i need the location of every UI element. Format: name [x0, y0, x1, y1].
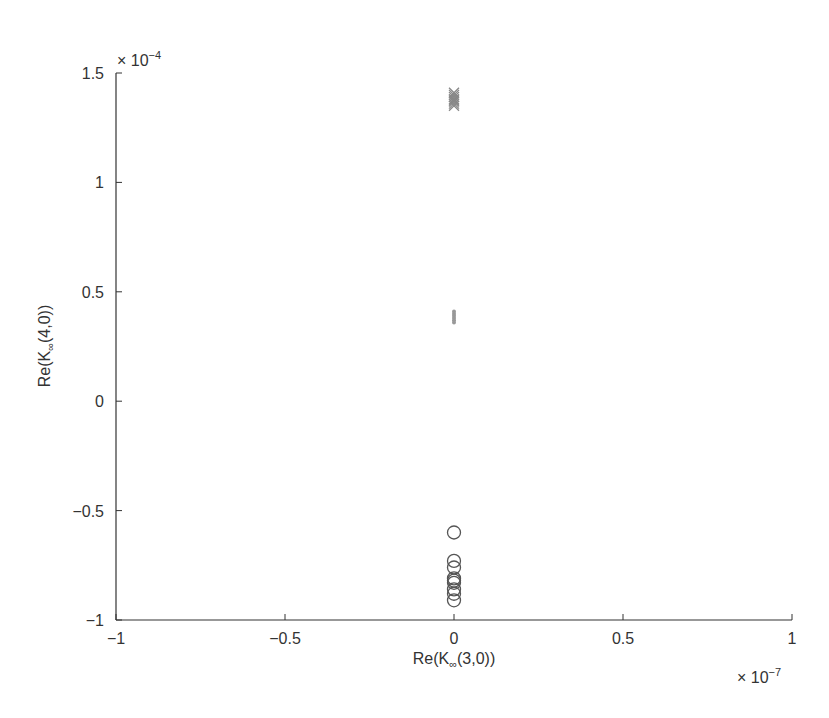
y-tick-label: 1 — [95, 174, 104, 191]
scatter-plot: −1−0.500.51−1−0.500.511.5 × 10−4 × 10−7 … — [0, 0, 829, 718]
axes — [116, 73, 792, 620]
x-axis-multiplier: × 10−7 — [737, 666, 781, 686]
dot-marker — [452, 320, 456, 324]
y-tick-label: −0.5 — [72, 503, 104, 520]
x-tick-label: 1 — [788, 630, 797, 647]
y-axis-multiplier: × 10−4 — [117, 49, 161, 69]
circle-marker — [448, 526, 461, 539]
y-tick-label: 1.5 — [82, 65, 104, 82]
y-tick-label: 0.5 — [82, 284, 104, 301]
x-tick-label: −0.5 — [269, 630, 301, 647]
x-tick-label: 0.5 — [612, 630, 634, 647]
y-axis-label: Re(K∞(4,0)) — [36, 305, 56, 388]
data-points — [448, 88, 461, 607]
y-tick-label: 0 — [95, 393, 104, 410]
x-tick-label: −1 — [107, 630, 125, 647]
y-tick-label: −1 — [86, 612, 104, 629]
ticks: −1−0.500.51−1−0.500.511.5 — [72, 65, 796, 647]
x-axis-label: Re(K∞(3,0)) — [413, 650, 496, 670]
x-tick-label: 0 — [450, 630, 459, 647]
